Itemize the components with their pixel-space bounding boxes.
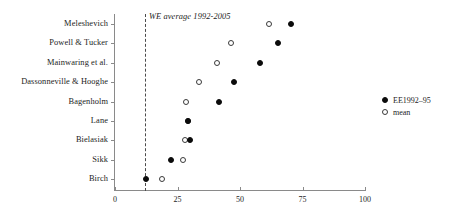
chart-legend: EE1992–95 mean (382, 94, 431, 118)
y-axis-label: Lane (91, 116, 108, 126)
plot-panel: 0255075100 WE average 1992-2005 (115, 16, 365, 191)
filled-circle-icon (382, 97, 388, 103)
data-point-mean (180, 157, 186, 163)
x-axis-tick-label: 75 (299, 195, 307, 204)
data-point-mean (183, 99, 189, 105)
x-axis-tick (178, 187, 179, 191)
x-axis-tick (115, 187, 116, 191)
x-axis-tick-label: 25 (174, 195, 182, 204)
y-axis-tick (111, 63, 115, 64)
open-circle-icon (382, 109, 388, 115)
y-axis-label: Powell & Tucker (49, 38, 108, 48)
x-axis-tick-label: 50 (236, 195, 244, 204)
y-axis-tick (111, 140, 115, 141)
legend-item-mean: mean (382, 106, 431, 118)
data-point-mean (228, 40, 234, 46)
legend-label: EE1992–95 (393, 96, 431, 105)
we-average-reference-line (145, 14, 146, 191)
legend-item-ee1992-95: EE1992–95 (382, 94, 431, 106)
data-point-ee1992-95 (143, 176, 149, 182)
data-point-ee1992-95 (187, 137, 193, 143)
y-axis-label: Dassonneville & Hooghe (21, 77, 108, 87)
y-axis-label: Bagenholm (68, 97, 108, 107)
x-axis-tick-label: 100 (359, 195, 371, 204)
data-point-ee1992-95 (185, 118, 191, 124)
y-axis-label: Meleshevich (64, 19, 108, 29)
legend-label: mean (393, 108, 410, 117)
data-point-ee1992-95 (275, 40, 281, 46)
y-axis-tick (111, 121, 115, 122)
x-axis-tick (240, 187, 241, 191)
data-point-ee1992-95 (231, 79, 237, 85)
data-point-ee1992-95 (216, 99, 222, 105)
dot-plot-figure: MeleshevichPowell & TuckerMainwaring et … (0, 0, 456, 213)
x-axis-tick (303, 187, 304, 191)
x-axis-tick-label: 0 (113, 195, 117, 204)
y-axis-tick (111, 43, 115, 44)
y-axis-category-labels: MeleshevichPowell & TuckerMainwaring et … (0, 0, 108, 213)
y-axis-label: Sikk (92, 155, 108, 165)
y-axis-line (114, 14, 115, 191)
y-axis-tick (111, 24, 115, 25)
data-point-ee1992-95 (257, 60, 263, 66)
y-axis-tick (111, 82, 115, 83)
y-axis-label: Bielasiak (76, 135, 108, 145)
data-point-mean (214, 60, 220, 66)
data-point-ee1992-95 (168, 157, 174, 163)
y-axis-label: Mainwaring et al. (47, 58, 108, 68)
we-average-annotation-label: WE average 1992-2005 (149, 12, 231, 21)
y-axis-tick (111, 160, 115, 161)
y-axis-tick (111, 179, 115, 180)
data-point-mean (159, 176, 165, 182)
y-axis-tick (111, 102, 115, 103)
x-axis-tick (365, 187, 366, 191)
data-point-ee1992-95 (288, 21, 294, 27)
y-axis-label: Birch (89, 174, 108, 184)
data-point-mean (266, 21, 272, 27)
data-point-mean (196, 79, 202, 85)
